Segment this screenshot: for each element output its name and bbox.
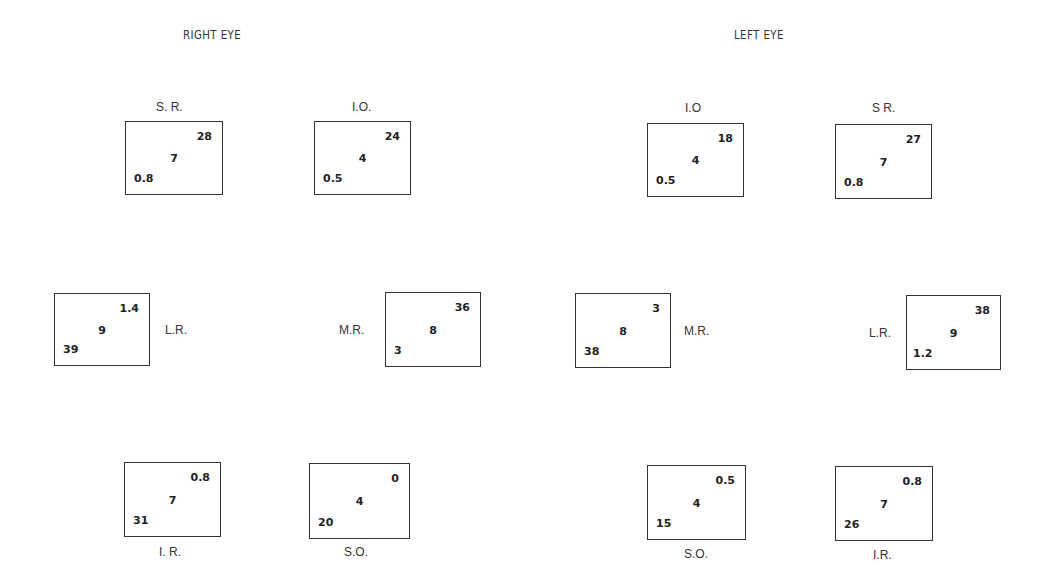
- left-sr-top-value: 27: [906, 133, 921, 146]
- left-mr-label: M.R.: [684, 324, 709, 338]
- left-lr-box: 38 9 1.2: [906, 295, 1001, 370]
- right-lr-label: L.R.: [165, 323, 187, 337]
- right-sr-bottom-value: 0.8: [134, 172, 154, 185]
- right-sr-top-value: 28: [197, 130, 212, 143]
- right-ir-box: 0.8 7 31: [124, 462, 221, 537]
- left-sr-bottom-value: 0.8: [844, 176, 864, 189]
- left-io-bottom-value: 0.5: [656, 174, 676, 187]
- right-so-label: S.O.: [344, 545, 368, 559]
- left-so-bottom-value: 15: [656, 517, 671, 530]
- right-mr-bottom-value: 3: [394, 344, 402, 357]
- left-io-box: 18 4 0.5: [647, 123, 744, 197]
- right-so-box: 0 4 20: [309, 463, 410, 539]
- left-eye-title: LEFT EYE: [734, 28, 784, 42]
- left-mr-center-value: 8: [619, 324, 627, 337]
- right-io-label: I.O.: [352, 100, 371, 114]
- right-io-center-value: 4: [359, 152, 367, 165]
- right-mr-label: M.R.: [339, 323, 364, 337]
- right-io-box: 24 4 0.5: [314, 121, 411, 195]
- left-mr-box: 3 8 38: [575, 293, 671, 368]
- right-lr-bottom-value: 39: [63, 343, 78, 356]
- right-mr-top-value: 36: [455, 301, 470, 314]
- left-lr-center-value: 9: [950, 326, 958, 339]
- left-mr-bottom-value: 38: [584, 345, 599, 358]
- right-sr-box: 28 7 0.8: [125, 121, 223, 195]
- right-ir-bottom-value: 31: [133, 514, 148, 527]
- right-mr-center-value: 8: [429, 323, 437, 336]
- left-so-label: S.O.: [684, 547, 708, 561]
- left-so-box: 0.5 4 15: [647, 465, 746, 540]
- right-ir-label: I. R.: [159, 545, 181, 559]
- left-so-top-value: 0.5: [716, 474, 736, 487]
- right-lr-center-value: 9: [98, 323, 106, 336]
- left-sr-label: S R.: [872, 101, 895, 115]
- left-lr-label: L.R.: [869, 326, 891, 340]
- left-so-center-value: 4: [693, 496, 701, 509]
- left-ir-top-value: 0.8: [903, 475, 923, 488]
- left-ir-label: I.R.: [873, 548, 892, 562]
- right-sr-label: S. R.: [156, 100, 183, 114]
- left-ir-center-value: 7: [880, 497, 888, 510]
- left-sr-center-value: 7: [880, 155, 888, 168]
- left-ir-bottom-value: 26: [844, 518, 859, 531]
- left-ir-box: 0.8 7 26: [835, 466, 933, 541]
- right-lr-top-value: 1.4: [120, 302, 140, 315]
- right-mr-box: 36 8 3: [385, 292, 481, 367]
- left-mr-top-value: 3: [652, 302, 660, 315]
- right-so-top-value: 0: [391, 472, 399, 485]
- right-io-top-value: 24: [385, 130, 400, 143]
- right-io-bottom-value: 0.5: [323, 172, 343, 185]
- left-io-center-value: 4: [692, 154, 700, 167]
- right-so-bottom-value: 20: [318, 516, 333, 529]
- left-lr-bottom-value: 1.2: [913, 347, 933, 360]
- right-lr-box: 1.4 9 39: [54, 293, 150, 366]
- right-sr-center-value: 7: [170, 152, 178, 165]
- left-io-top-value: 18: [718, 132, 733, 145]
- right-ir-top-value: 0.8: [191, 471, 211, 484]
- left-sr-box: 27 7 0.8: [835, 124, 932, 199]
- left-io-label: I.O: [685, 101, 701, 115]
- right-ir-center-value: 7: [169, 493, 177, 506]
- left-lr-top-value: 38: [975, 304, 990, 317]
- right-so-center-value: 4: [356, 495, 364, 508]
- right-eye-title: RIGHT EYE: [183, 28, 241, 42]
